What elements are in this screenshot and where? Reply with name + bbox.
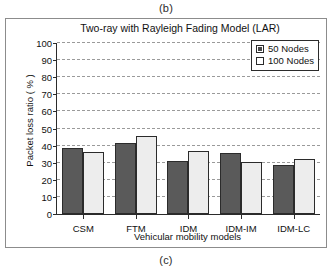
x-tick-mark [136,214,137,219]
y-tick-label: 60 [41,106,52,117]
legend-swatch-100-nodes [256,57,264,65]
x-tick-mark [241,214,242,219]
bar-group: IDM [162,43,215,214]
y-tick-label: 100 [36,38,52,49]
bar-idm-50-nodes [167,161,188,214]
legend-item-100-nodes: 100 Nodes [256,55,314,67]
bar-csm-50-nodes [62,148,83,214]
bar-csm-100-nodes [83,152,104,214]
chart-frame: Two-ray with Rayleigh Fading Model (LAR)… [5,18,327,248]
bar-idm-100-nodes [188,151,209,214]
y-tick-label: 90 [41,55,52,66]
chart-legend: 50 Nodes 100 Nodes [251,40,319,71]
figure-panel: (b) Two-ray with Rayleigh Fading Model (… [0,0,332,271]
legend-label-100-nodes: 100 Nodes [268,55,314,67]
x-tick-mark [188,214,189,219]
y-tick-mark [53,214,57,215]
figure-caption-top: (b) [0,2,332,14]
y-tick-label: 50 [41,123,52,134]
legend-swatch-50-nodes [256,45,264,53]
bar-idm-lc-50-nodes [273,165,294,214]
y-tick-label: 80 [41,72,52,83]
y-tick-label: 30 [41,157,52,168]
figure-caption-bottom: (c) [0,254,332,266]
bar-idm-im-50-nodes [220,153,241,214]
chart-title: Two-ray with Rayleigh Fading Model (LAR) [36,22,324,34]
x-tick-mark [294,214,295,219]
bar-idm-im-100-nodes [241,162,262,214]
y-tick-label: 20 [41,174,52,185]
bar-ftm-100-nodes [136,136,157,214]
y-tick-label: 10 [41,191,52,202]
x-tick-mark [83,214,84,219]
legend-item-50-nodes: 50 Nodes [256,43,314,55]
y-tick-label: 40 [41,140,52,151]
y-tick-label: 70 [41,89,52,100]
x-axis-label: Vehicular mobility models [56,231,319,242]
legend-label-50-nodes: 50 Nodes [268,43,309,55]
y-axis-label: Packet loss ratio ( % ) [24,51,35,191]
bar-ftm-50-nodes [115,143,136,214]
bar-group: CSM [57,43,110,214]
bar-group: FTM [110,43,163,214]
y-tick-label: 0 [47,209,52,220]
bar-idm-lc-100-nodes [294,159,315,214]
